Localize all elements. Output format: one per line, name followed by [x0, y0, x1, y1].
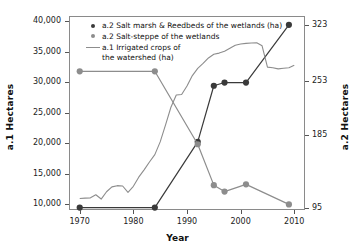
y-tick-mark — [65, 204, 69, 205]
data-point-marker — [221, 188, 227, 194]
y-tick-label-right: 95 — [312, 203, 340, 212]
data-point-marker — [243, 79, 249, 85]
legend-marker-icon — [84, 21, 102, 30]
data-point-marker — [286, 201, 292, 207]
y-tick-label-left: 10,000 — [19, 199, 61, 208]
y-tick-label-left: 20,000 — [19, 138, 61, 147]
data-point-marker — [152, 68, 158, 74]
x-tick-mark — [187, 210, 188, 214]
y-tick-label-left: 35,000 — [19, 47, 61, 56]
data-point-marker — [286, 22, 292, 28]
legend-item-irrigated-crops: a.1 Irrigated crops of the watershed (ha… — [84, 43, 282, 63]
y-tick-label-right: 253 — [312, 76, 340, 85]
legend-label-salt-marsh: a.2 Salt marsh & Reedbeds of the wetland… — [102, 21, 282, 31]
y-tick-mark — [65, 82, 69, 83]
chart-container: a.1 Hectares a.2 Hectares Year 10,00015,… — [0, 0, 355, 251]
y-tick-mark — [305, 81, 309, 82]
x-tick-label: 2010 — [274, 217, 314, 226]
data-point-marker — [221, 79, 227, 85]
data-point-marker — [195, 141, 201, 147]
legend-label-salt-steppe: a.2 Salt-steppe of the wetlands — [102, 32, 219, 42]
y-tick-mark — [65, 174, 69, 175]
x-tick-label: 2000 — [221, 217, 261, 226]
series-line — [80, 43, 295, 199]
y-tick-label-left: 15,000 — [19, 169, 61, 178]
y-tick-mark — [305, 25, 309, 26]
x-tick-label: 1970 — [60, 217, 100, 226]
x-tick-mark — [80, 210, 81, 214]
y-tick-mark — [65, 21, 69, 22]
data-point-marker — [152, 205, 158, 211]
y-tick-label-left: 30,000 — [19, 77, 61, 86]
y-tick-mark — [305, 208, 309, 209]
series-line — [80, 71, 289, 204]
y-tick-mark — [65, 52, 69, 53]
legend-marker-icon — [84, 32, 102, 41]
y-tick-label-right: 185 — [312, 130, 340, 139]
data-point-marker — [243, 181, 249, 187]
y-tick-mark — [65, 143, 69, 144]
chart-legend: a.2 Salt marsh & Reedbeds of the wetland… — [84, 21, 282, 64]
x-tick-mark — [294, 210, 295, 214]
y-tick-label-right: 323 — [312, 20, 340, 29]
y-tick-label-left: 40,000 — [19, 16, 61, 25]
data-point-marker — [211, 83, 217, 89]
legend-label-irrigated-crops: a.1 Irrigated crops of the watershed (ha… — [102, 43, 180, 63]
legend-item-salt-marsh: a.2 Salt marsh & Reedbeds of the wetland… — [84, 21, 282, 31]
x-tick-label: 1990 — [167, 217, 207, 226]
x-tick-mark — [133, 210, 134, 214]
data-point-marker — [211, 182, 217, 188]
x-tick-mark — [241, 210, 242, 214]
x-tick-label: 1980 — [113, 217, 153, 226]
legend-line-icon — [84, 43, 102, 52]
data-point-marker — [77, 68, 83, 74]
y-tick-label-left: 25,000 — [19, 108, 61, 117]
y-tick-mark — [65, 113, 69, 114]
y-tick-mark — [305, 135, 309, 136]
legend-item-salt-steppe: a.2 Salt-steppe of the wetlands — [84, 32, 282, 42]
